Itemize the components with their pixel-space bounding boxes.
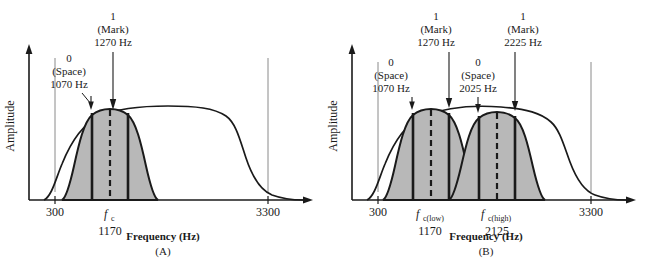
callout-mark-1270-a: 1 (Mark) 1270 Hz	[94, 10, 132, 110]
callout-bit: 0	[475, 56, 481, 68]
callout-freq: 2225 Hz	[504, 36, 542, 48]
fc-subscript: c	[111, 214, 115, 223]
callout-mark-2225-b: 1 (Mark) 2225 Hz	[504, 10, 542, 111]
callout-freq: 1070 Hz	[50, 78, 88, 90]
callout-freq: 1270 Hz	[94, 36, 132, 48]
callout-space-1070-a: 0 (Space) 1070 Hz	[50, 52, 94, 110]
fc-low-value: 1170	[418, 224, 442, 238]
fc-low-subscript: c(low)	[423, 214, 444, 223]
fsk-spectrum-figure: 0 (Space) 1070 Hz 1 (Mark) 1270 Hz 300 3…	[0, 0, 646, 260]
panel-a: 0 (Space) 1070 Hz 1 (Mark) 1270 Hz 300 3…	[0, 0, 323, 260]
x-axis-label: Frequency (Hz)	[126, 230, 200, 243]
y-axis-label: Amplitude	[326, 100, 340, 151]
xtick-label-300: 300	[46, 205, 64, 219]
fc-high-subscript: c(high)	[488, 214, 511, 223]
callout-bit: 1	[110, 10, 116, 22]
callout-freq: 1270 Hz	[417, 36, 455, 48]
xtick-label-300: 300	[369, 205, 387, 219]
callout-kind: (Space)	[461, 69, 495, 82]
callout-freq: 1070 Hz	[372, 82, 410, 94]
panel-caption: (B)	[479, 245, 494, 258]
fc-symbol: f	[104, 207, 109, 221]
y-axis-label: Amplitude	[3, 100, 17, 151]
callout-bit: 1	[433, 10, 439, 22]
panel-b: 0 (Space) 1070 Hz 1 (Mark) 1270 Hz 0 (Sp…	[323, 0, 646, 260]
fc-value: 1170	[98, 224, 122, 238]
callout-kind: (Space)	[52, 65, 86, 78]
xtick-label-3300: 3300	[256, 205, 280, 219]
fc-high-symbol: f	[481, 207, 486, 221]
callout-kind: (Mark)	[97, 23, 128, 36]
center-frequency-label-a: f c 1170	[98, 207, 122, 238]
y-axis-a	[26, 44, 33, 200]
callout-kind: (Space)	[374, 69, 408, 82]
callout-bit: 1	[520, 10, 526, 22]
x-axis-label: Frequency (Hz)	[449, 230, 523, 243]
callout-mark-1270-b: 1 (Mark) 1270 Hz	[417, 10, 455, 108]
y-axis-b	[349, 44, 356, 200]
callout-freq: 2025 Hz	[459, 82, 497, 94]
callout-kind: (Mark)	[507, 23, 538, 36]
fc-low-symbol: f	[416, 207, 421, 221]
callout-space-2025-b: 0 (Space) 2025 Hz	[459, 56, 497, 113]
center-frequency-label-low-b: f c(low) 1170	[416, 207, 444, 238]
callout-space-1070-b: 0 (Space) 1070 Hz	[372, 56, 415, 110]
panel-caption: (A)	[155, 245, 171, 258]
callout-bit: 0	[66, 52, 72, 64]
xtick-label-3300: 3300	[579, 205, 603, 219]
callout-bit: 0	[388, 56, 394, 68]
callout-kind: (Mark)	[420, 23, 451, 36]
